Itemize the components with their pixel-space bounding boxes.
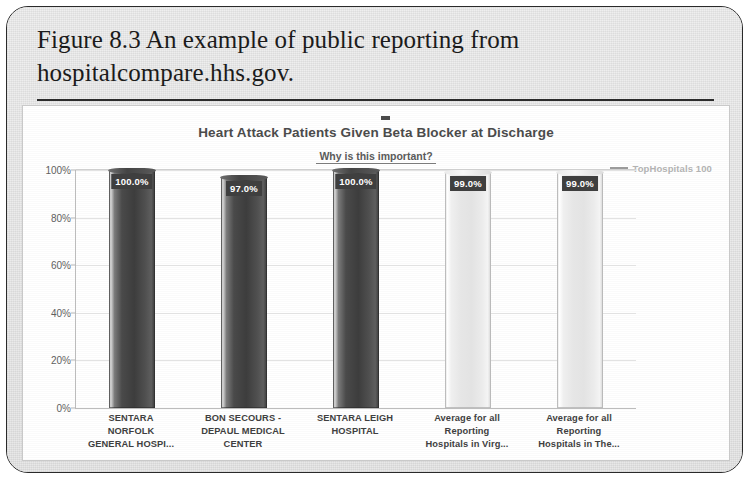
plot-area: 100%80%60%40%20%0% 100.0%97.0%100.0%99.0…	[75, 170, 636, 409]
bar-slot: 99.0%	[524, 170, 636, 408]
bar-top-cap	[444, 170, 492, 175]
x-axis-label: Average for allReportingHospitals in The…	[523, 412, 635, 450]
bar-top-cap	[332, 168, 380, 173]
x-axis-label-line: DEPAUL MEDICAL	[189, 425, 297, 438]
x-axis-label-line: SENTARA LEIGH	[301, 412, 409, 425]
bar-series: 100.0%97.0%100.0%99.0%99.0%	[76, 170, 636, 408]
bar[interactable]: 99.0%	[445, 172, 491, 408]
bar-top-cap	[556, 170, 604, 175]
bar-slot: 99.0%	[412, 170, 524, 408]
x-axis-label-line: BON SECOURS -	[189, 412, 297, 425]
figure-screenshot: Figure 8.3 An example of public reportin…	[0, 0, 751, 485]
bar[interactable]: 99.0%	[557, 172, 603, 408]
y-tick-label: 0%	[57, 403, 71, 414]
bar[interactable]: 100.0%	[333, 170, 379, 408]
x-axis-label: Average for allReportingHospitals in Vir…	[411, 412, 523, 450]
bar-slot: 100.0%	[76, 170, 188, 408]
y-tick-label: 40%	[51, 307, 71, 318]
bar-top-cap	[220, 175, 268, 180]
x-axis-label: SENTARANORFOLKGENERAL HOSPI...	[75, 412, 187, 450]
x-axis-label: BON SECOURS -DEPAUL MEDICALCENTER	[187, 412, 299, 450]
figure-frame: Figure 8.3 An example of public reportin…	[6, 6, 743, 473]
figure-caption: Figure 8.3 An example of public reportin…	[37, 23, 677, 90]
x-axis-label-line: HOSPITAL	[301, 425, 409, 438]
x-axis-label-line: Reporting	[525, 425, 633, 438]
caption-line-2: hospitalcompare.hhs.gov.	[37, 56, 677, 89]
x-axis-label-line: Hospitals in Virg...	[413, 438, 521, 451]
y-tick-label: 80%	[51, 212, 71, 223]
y-tick-label: 100%	[45, 165, 71, 176]
x-axis-label-line: Hospitals in The...	[525, 438, 633, 451]
x-axis-label-line: Average for all	[413, 412, 521, 425]
bar-value-label: 97.0%	[226, 181, 262, 196]
top-marker-icon	[381, 116, 390, 120]
y-tick-label: 60%	[51, 260, 71, 271]
bar-value-label: 100.0%	[335, 174, 376, 189]
bar[interactable]: 97.0%	[221, 177, 267, 408]
bar-value-label: 100.0%	[111, 174, 152, 189]
why-is-this-important-link[interactable]: Why is this important?	[23, 146, 729, 164]
bar-slot: 100.0%	[300, 170, 412, 408]
chart-panel: Heart Attack Patients Given Beta Blocker…	[23, 106, 729, 460]
x-axis-label-line: Reporting	[413, 425, 521, 438]
bar-value-label: 99.0%	[450, 176, 486, 191]
caption-line-1: Figure 8.3 An example of public reportin…	[37, 23, 677, 56]
bar[interactable]: 100.0%	[109, 170, 155, 408]
x-axis-label: SENTARA LEIGHHOSPITAL	[299, 412, 411, 450]
x-axis-label-line: NORFOLK	[77, 425, 185, 438]
x-axis-labels: SENTARANORFOLKGENERAL HOSPI...BON SECOUR…	[75, 412, 635, 450]
y-tick-label: 20%	[51, 355, 71, 366]
bar-top-cap	[108, 168, 156, 173]
why-is-this-important-label: Why is this important?	[316, 150, 435, 164]
bar-value-label: 99.0%	[562, 176, 598, 191]
bar-slot: 97.0%	[188, 170, 300, 408]
caption-divider	[37, 99, 714, 101]
x-axis-label-line: SENTARA	[77, 412, 185, 425]
x-axis-label-line: CENTER	[189, 438, 297, 451]
x-axis-label-line: Average for all	[525, 412, 633, 425]
chart-title: Heart Attack Patients Given Beta Blocker…	[23, 125, 729, 140]
legend-label: TopHospitals 100	[632, 163, 712, 174]
x-axis-label-line: GENERAL HOSPI...	[77, 438, 185, 451]
